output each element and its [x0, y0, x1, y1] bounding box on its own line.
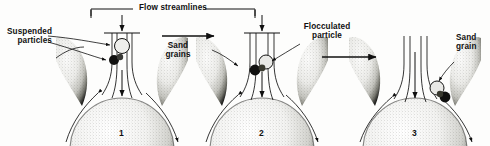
leader-flocculated-particle [272, 44, 300, 61]
label-flow-streamlines: Flow streamlines [128, 3, 218, 12]
panel-1 [48, 15, 188, 146]
panel-number-2: 2 [259, 128, 264, 138]
sand-grain-sphere-1 [70, 96, 174, 146]
sand-grain-sphere-2 [210, 96, 314, 146]
label-suspended-particles: Suspended particles [0, 27, 52, 46]
label-sand-grain: Sand grain [456, 33, 490, 52]
diagram-artwork [0, 0, 490, 146]
sand-grain-sphere-3 [363, 96, 467, 146]
panel-number-3: 3 [412, 128, 417, 138]
label-flocculated-particle: Flocculated particle [294, 22, 360, 41]
flocculated-particle-cluster-3 [430, 81, 450, 102]
flocculated-particle-cluster-2 [250, 55, 273, 75]
panel-number-1: 1 [119, 128, 124, 138]
filtration-diagram: Flow streamlines Suspended particles San… [0, 0, 490, 146]
label-sand-grains: Sand grains [158, 41, 198, 60]
